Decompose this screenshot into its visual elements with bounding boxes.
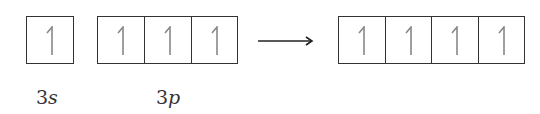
spin-up-icon: [404, 26, 416, 56]
label-3p: 3p: [156, 86, 180, 108]
spin-up-icon: [163, 26, 175, 56]
spin-up-icon: [45, 26, 57, 56]
orbital-box: [478, 17, 524, 63]
orbital-group-3p: [97, 16, 238, 64]
orbital-group-hybrid: [338, 16, 525, 64]
orbital-box: [191, 17, 237, 63]
orbital-box: [98, 17, 144, 63]
spin-up-icon: [116, 26, 128, 56]
spin-up-icon: [357, 26, 369, 56]
orbital-box: [385, 17, 431, 63]
spin-up-icon: [210, 26, 222, 56]
orbital-box: [339, 17, 385, 63]
orbital-box: [144, 17, 191, 63]
orbital-box: [431, 17, 478, 63]
spin-up-icon: [450, 26, 462, 56]
right-arrow-icon: [258, 34, 314, 48]
orbital-group-3s: [26, 16, 74, 64]
label-3s: 3s: [36, 86, 58, 108]
orbital-box: [27, 17, 73, 63]
spin-up-icon: [497, 26, 509, 56]
